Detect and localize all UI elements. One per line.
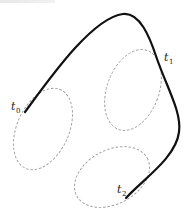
region-0-dashed-ellipse bbox=[2, 79, 84, 179]
label-t2: t2 bbox=[117, 183, 126, 198]
region-2-dashed-ellipse bbox=[64, 134, 160, 219]
region-1-dashed-ellipse bbox=[94, 42, 172, 139]
regions-group bbox=[2, 42, 172, 220]
label-t1: t1 bbox=[164, 51, 173, 66]
trajectory-diagram: t0t1t2 bbox=[0, 0, 187, 220]
label-t0: t0 bbox=[11, 100, 20, 115]
trajectory-curve bbox=[25, 14, 179, 198]
